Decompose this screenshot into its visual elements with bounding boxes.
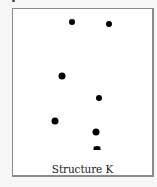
structure-figure-frame: Structure K	[12, 8, 154, 177]
structure-dot	[106, 21, 112, 27]
structure-dot	[69, 19, 75, 25]
structure-dot	[96, 95, 102, 101]
cropped-mark	[12, 0, 15, 2]
structure-dot	[52, 118, 59, 125]
structure-dot	[94, 146, 101, 150]
structure-dot	[59, 73, 66, 80]
structure-dot	[93, 129, 100, 136]
figure-caption: Structure K	[13, 163, 152, 175]
